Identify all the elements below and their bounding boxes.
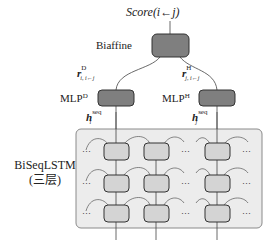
encoder-name: BiSeqLSTM <box>10 158 80 173</box>
lstm-cell <box>104 175 129 192</box>
lstm-cell <box>104 205 129 222</box>
svg-text:···: ··· <box>181 178 190 188</box>
lstm-cell <box>144 143 169 160</box>
svg-text:···: ··· <box>82 146 91 156</box>
svg-text:···: ··· <box>242 208 251 218</box>
h-seq-j-label: hseqj <box>192 111 197 125</box>
lstm-cell <box>205 175 230 192</box>
lstm-cell <box>205 143 230 160</box>
diagram-canvas: ··· ··· ··· ··· ··· ··· ··· ··· ··· <box>0 0 272 242</box>
edge-biaffine-mlpd <box>116 57 160 90</box>
encoder-layers-note: (三层) <box>10 173 80 188</box>
mlp-h-node <box>199 90 235 106</box>
lstm-cell <box>205 205 230 222</box>
biseqlstm-label: BiSeqLSTM (三层) <box>10 158 80 188</box>
r-dependent-vector-label: rDi, i←j <box>77 67 94 81</box>
lstm-cell <box>144 175 169 192</box>
mlp-d-label: MLPD <box>60 93 88 104</box>
mlp-d-node <box>98 90 134 106</box>
svg-text:···: ··· <box>242 178 251 188</box>
biaffine-node <box>152 34 189 57</box>
svg-text:···: ··· <box>82 178 91 188</box>
lstm-cell <box>104 143 129 160</box>
svg-text:···: ··· <box>181 146 190 156</box>
lstm-cell <box>144 205 169 222</box>
score-label: Score(i←j) <box>126 6 180 18</box>
svg-text:···: ··· <box>82 208 91 218</box>
mlp-h-label: MLPH <box>162 93 190 104</box>
svg-text:···: ··· <box>181 208 190 218</box>
biaffine-label: Biaffine <box>96 40 132 51</box>
h-seq-i-label: hseqi <box>86 111 91 125</box>
r-head-vector-label: rHj, i←j <box>182 67 199 81</box>
svg-text:···: ··· <box>242 146 251 156</box>
